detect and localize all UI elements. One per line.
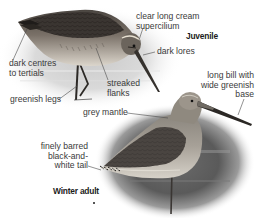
bird-illustrations [0, 0, 258, 218]
label-grey-mantle: grey mantle [83, 108, 128, 118]
label-dark-centres-tertials: dark centres to tertials [9, 59, 56, 78]
label-supercilium: clear long cream supercilium [136, 12, 200, 31]
stray-dot [93, 202, 95, 204]
title-juvenile: Juvenile [186, 31, 218, 41]
label-streaked-flanks: streaked flanks [107, 79, 140, 98]
label-greenish-legs: greenish legs [10, 95, 61, 105]
label-barred-tail: finely barred black-and- white tail [34, 142, 88, 171]
field-guide-figure: clear long cream supercilium Juvenile da… [0, 0, 258, 218]
label-long-bill: long bill with wide greenish base [201, 71, 254, 100]
label-dark-lores: dark lores [157, 47, 195, 57]
title-winter-adult: Winter adult [53, 186, 99, 196]
